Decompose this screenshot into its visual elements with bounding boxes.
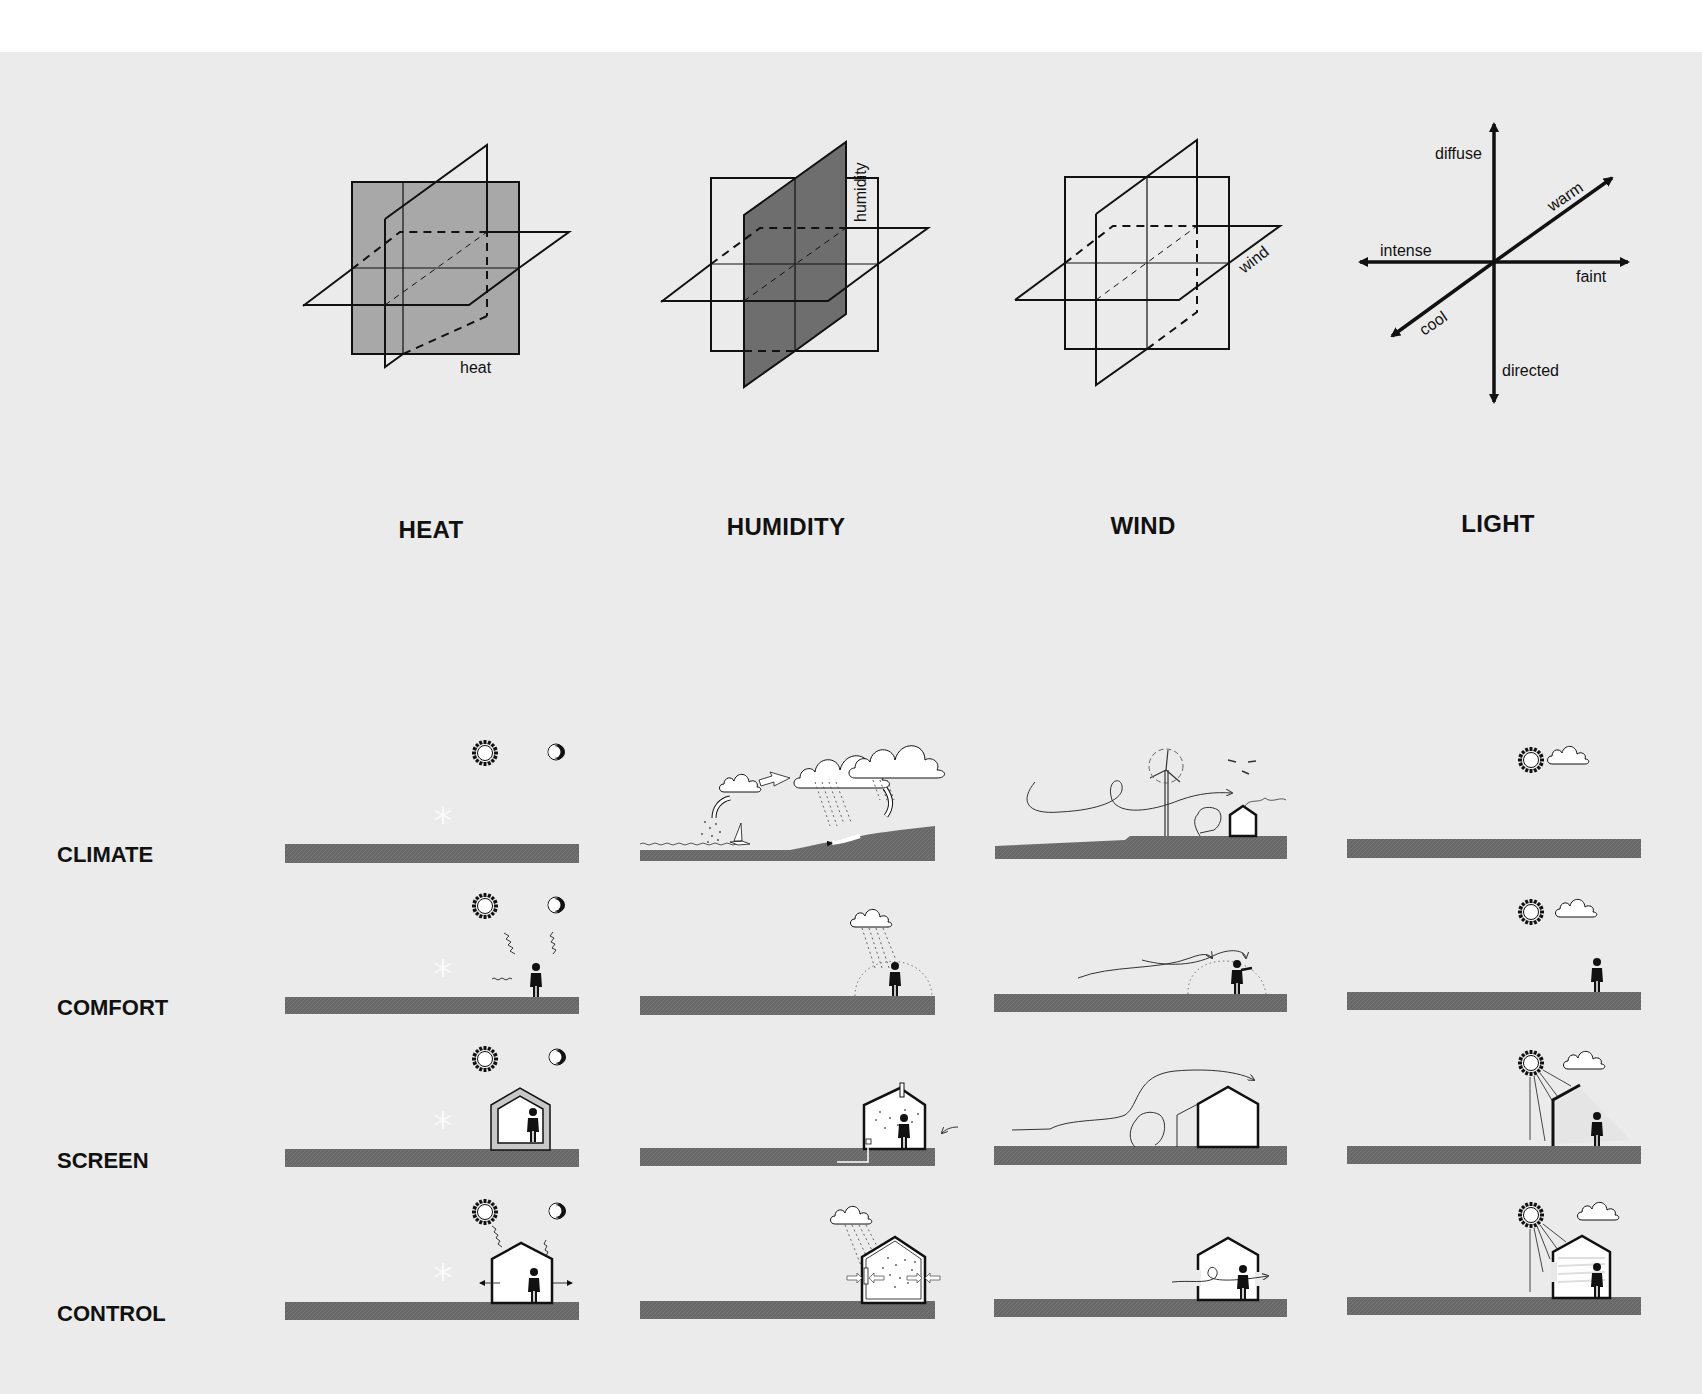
scene-light-screen (1347, 1050, 1641, 1164)
scene-light-comfort (1347, 899, 1641, 1010)
scene-wind-screen (994, 1070, 1287, 1165)
scene-heat-climate (285, 740, 579, 863)
scene-light-climate (1347, 746, 1641, 858)
house-icon (1230, 806, 1256, 836)
scene-humidity-climate (640, 746, 945, 861)
sailboat-icon (730, 823, 750, 845)
scene-humidity-screen (640, 1083, 958, 1166)
scene-humidity-comfort (640, 909, 935, 1015)
scene-wind-climate (995, 749, 1287, 859)
scene-grid (0, 0, 1702, 1394)
moon-icon (548, 744, 565, 760)
scene-heat-screen (285, 1046, 579, 1167)
person-icon (530, 963, 542, 997)
tree-icon (1130, 1112, 1164, 1147)
tree-icon (1195, 807, 1221, 836)
snowflake-icon (435, 806, 451, 824)
scene-humidity-control (640, 1206, 940, 1319)
scene-wind-control (994, 1238, 1287, 1317)
scene-heat-control (285, 1199, 579, 1320)
sun-icon (472, 740, 498, 766)
sun-icon (1518, 747, 1544, 773)
scene-heat-comfort (285, 893, 579, 1014)
cloud-icon (1548, 746, 1589, 764)
scene-wind-comfort (994, 951, 1287, 1012)
scene-light-control (1347, 1202, 1641, 1315)
